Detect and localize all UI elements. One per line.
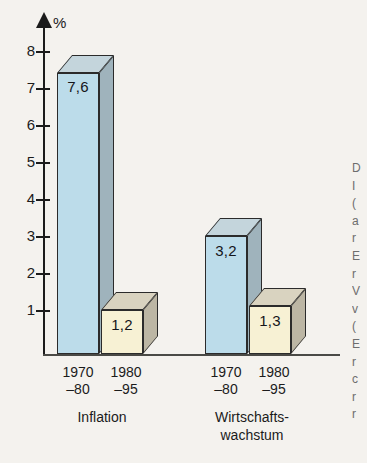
bar-front-face [57, 73, 99, 354]
caption-line: r [352, 230, 367, 248]
period-line-2: –80 [52, 381, 104, 398]
caption-line: ( [352, 195, 367, 213]
caption-line: I [352, 178, 367, 196]
group-label-wirtschaftswachstum: Wirtschafts- wachstum [196, 408, 308, 444]
chart-figure: % 8 7 6 5 4 3 2 1 7,6 1,2 3,2 [0, 0, 367, 463]
group-label-inflation: Inflation [48, 408, 156, 426]
y-tick-4 [36, 199, 50, 201]
caption-line: r [352, 266, 367, 284]
y-tick-label-5: 5 [18, 154, 35, 169]
bar-value-label: 1,2 [101, 316, 143, 333]
y-axis-arrow-icon [36, 12, 52, 28]
y-tick-8 [36, 51, 50, 53]
period-line-1: 1970 [52, 364, 104, 381]
caption-line: E [352, 248, 367, 266]
caption-line: E [352, 336, 367, 354]
y-axis-unit-label: % [53, 14, 66, 31]
caption-line: r [352, 406, 367, 424]
bar-wirtschaftswachstum-1970-80[interactable]: 3,2 [205, 218, 247, 354]
y-tick-label-3: 3 [18, 228, 35, 243]
y-tick-label-8: 8 [18, 43, 35, 58]
caption-line: r [352, 354, 367, 372]
y-tick-7 [36, 88, 50, 90]
y-tick-label-1: 1 [18, 302, 35, 317]
bar-inflation-1980-95[interactable]: 1,2 [101, 292, 143, 354]
caption-line: v [352, 301, 367, 319]
y-tick-6 [36, 125, 50, 127]
bar-value-label: 3,2 [205, 242, 247, 259]
caption-line: ( [352, 318, 367, 336]
group-label-line-1: Inflation [48, 408, 156, 426]
caption-line: r [352, 389, 367, 407]
y-tick-2 [36, 273, 50, 275]
bar-inflation-1970-80[interactable]: 7,6 [57, 55, 99, 354]
caption-line: c [352, 371, 367, 389]
group-label-line-2: wachstum [196, 426, 308, 444]
y-tick-label-6: 6 [18, 117, 35, 132]
group-label-line-1: Wirtschafts- [196, 408, 308, 426]
y-tick-label-4: 4 [18, 191, 35, 206]
x-label-wirtschaftswachstum-1970-80: 1970 –80 [200, 364, 252, 398]
y-tick-1 [36, 310, 50, 312]
y-tick-label-7: 7 [18, 80, 35, 95]
y-tick-5 [36, 162, 50, 164]
bar-wirtschaftswachstum-1980-95[interactable]: 1,3 [249, 288, 291, 354]
y-tick-label-2: 2 [18, 265, 35, 280]
caption-line: a [352, 213, 367, 231]
x-axis-line [43, 354, 340, 356]
y-axis-line [43, 24, 45, 356]
caption-line: D [352, 160, 367, 178]
bar-value-label: 1,3 [249, 312, 291, 329]
x-label-inflation-1970-80: 1970 –80 [52, 364, 104, 398]
period-line-2: –95 [248, 381, 300, 398]
period-line-1: 1980 [248, 364, 300, 381]
x-label-inflation-1980-95: 1980 –95 [100, 364, 152, 398]
bar-value-label: 7,6 [57, 78, 99, 95]
caption-column-cropped: D I ( a r E r V v ( E r c r r [352, 160, 367, 460]
x-label-wirtschaftswachstum-1980-95: 1980 –95 [248, 364, 300, 398]
period-line-1: 1980 [100, 364, 152, 381]
period-line-1: 1970 [200, 364, 252, 381]
period-line-2: –80 [200, 381, 252, 398]
y-tick-3 [36, 236, 50, 238]
caption-line: V [352, 283, 367, 301]
period-line-2: –95 [100, 381, 152, 398]
